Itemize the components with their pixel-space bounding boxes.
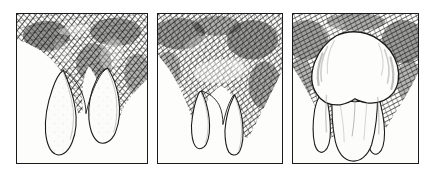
panel-3-artwork: [293, 14, 418, 163]
illustration-panel-1: Stage 1 Two pointed tooth cusps mostly c…: [16, 13, 148, 164]
panel-2-artwork: [158, 14, 282, 163]
figure-root: Stages of tooth eruption through the gum…: [0, 0, 433, 178]
illustration-panel-2: Stage 2 Gum tissue recedes slightly; two…: [157, 13, 283, 164]
panel-1-artwork: [17, 14, 147, 163]
illustration-panel-3: Stage 3 The full bulbous crown of the to…: [292, 13, 419, 164]
